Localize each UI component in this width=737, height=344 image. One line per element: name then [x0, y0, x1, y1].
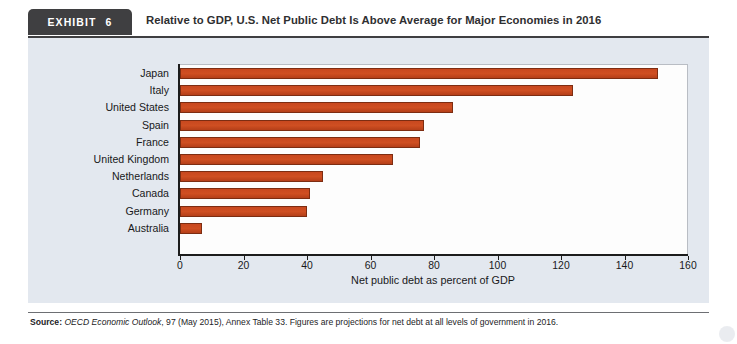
footer-divider — [28, 312, 709, 313]
bar — [180, 120, 424, 131]
bar — [180, 68, 658, 79]
category-label: United Kingdom — [28, 152, 174, 169]
category-label: Italy — [28, 83, 174, 100]
exhibit-badge: EXHIBIT 6 — [28, 9, 132, 35]
bar-row — [180, 221, 688, 238]
x-tick-label: 60 — [365, 260, 377, 271]
bar-row — [180, 135, 688, 152]
source-label: Source: — [30, 317, 62, 327]
page-corner-mark — [719, 326, 735, 342]
bar-series — [180, 66, 688, 254]
bar-row — [180, 204, 688, 221]
category-label: Japan — [28, 66, 174, 83]
bar-row — [180, 118, 688, 135]
bar-row — [180, 152, 688, 169]
bar — [180, 171, 323, 182]
x-tick-label: 80 — [428, 260, 440, 271]
source-publication: OECD Economic Outlook — [64, 317, 161, 327]
source-rest: , 97 (May 2015), Annex Table 33. Figures… — [161, 317, 558, 327]
bar — [180, 85, 573, 96]
x-axis-ticks: 020406080100120140160 — [178, 256, 688, 272]
x-tick-label: 160 — [679, 260, 696, 271]
bar — [180, 137, 420, 148]
bar — [180, 223, 202, 234]
x-tick-label: 120 — [552, 260, 569, 271]
x-tick-label: 0 — [177, 260, 183, 271]
category-label: Australia — [28, 221, 174, 238]
x-tick-label: 40 — [301, 260, 313, 271]
bar — [180, 206, 307, 217]
category-label: Canada — [28, 186, 174, 203]
x-tick-label: 140 — [616, 260, 633, 271]
exhibit-figure: EXHIBIT 6 Relative to GDP, U.S. Net Publ… — [0, 0, 737, 344]
category-label: France — [28, 135, 174, 152]
bar — [180, 154, 393, 165]
bar-row — [180, 83, 688, 100]
category-label: Netherlands — [28, 169, 174, 186]
category-label: United States — [28, 100, 174, 117]
source-note: Source: OECD Economic Outlook, 97 (May 2… — [30, 317, 558, 327]
bar-row — [180, 186, 688, 203]
chart-panel: JapanItalyUnited StatesSpainFranceUnited… — [28, 38, 709, 303]
exhibit-header: EXHIBIT 6 Relative to GDP, U.S. Net Publ… — [28, 9, 709, 39]
bar-row — [180, 169, 688, 186]
bar-row — [180, 66, 688, 83]
x-tick-label: 100 — [489, 260, 506, 271]
bar — [180, 102, 453, 113]
category-label: Germany — [28, 204, 174, 221]
bar — [180, 188, 310, 199]
x-tick-label: 20 — [238, 260, 250, 271]
exhibit-title: Relative to GDP, U.S. Net Public Debt Is… — [146, 14, 601, 26]
exhibit-badge-number: 6 — [106, 16, 113, 28]
exhibit-badge-word: EXHIBIT — [47, 16, 96, 28]
category-label: Spain — [28, 118, 174, 135]
x-axis-title: Net public debt as percent of GDP — [178, 274, 688, 286]
category-labels: JapanItalyUnited StatesSpainFranceUnited… — [28, 66, 174, 254]
bar-row — [180, 100, 688, 117]
